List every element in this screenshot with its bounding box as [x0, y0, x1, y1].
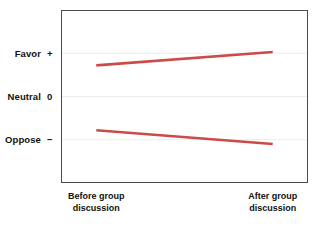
- y-axis-tick-neutral-symbol: 0: [47, 91, 60, 102]
- x-axis-tick-after-line1: After group: [213, 190, 329, 202]
- x-axis-tick-before-group-discussion: Before group discussion: [36, 190, 156, 214]
- x-axis-tick-before-line1: Before group: [36, 190, 156, 202]
- y-axis-tick-neutral: Neutral0: [0, 91, 60, 102]
- y-axis-tick-favor-label: Favor: [15, 48, 41, 59]
- plot-area: [61, 10, 308, 183]
- x-axis-tick-after-line2: discussion: [213, 202, 329, 214]
- polarization-line-chart: Favor+ Neutral0 Oppose− Before group dis…: [0, 0, 329, 234]
- x-axis-tick-after-group-discussion: After group discussion: [213, 190, 329, 214]
- y-axis-tick-neutral-label: Neutral: [8, 91, 41, 102]
- y-axis-tick-oppose-label: Oppose: [5, 134, 41, 145]
- y-axis-tick-oppose-symbol: −: [47, 134, 60, 145]
- y-axis-tick-favor-symbol: +: [47, 48, 60, 59]
- y-axis-tick-oppose: Oppose−: [0, 134, 60, 145]
- x-axis-tick-before-line2: discussion: [36, 202, 156, 214]
- y-axis-tick-favor: Favor+: [0, 48, 60, 59]
